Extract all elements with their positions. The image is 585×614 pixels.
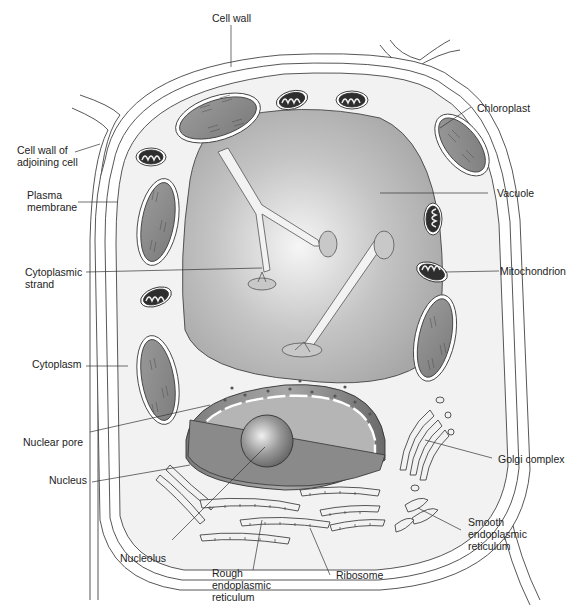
mitochondrion-4 [424,203,442,235]
label-nuclear-pore: Nuclear pore [23,436,83,448]
label-vacuole: Vacuole [497,187,534,199]
label-golgi-complex: Golgi complex [498,453,565,465]
label-nucleus: Nucleus [49,474,87,486]
label-mitochondrion: Mitochondrion [500,265,566,277]
label-ribosome: Ribosome [336,569,383,581]
label-cytoplasm: Cytoplasm [32,358,82,370]
label-chloroplast: Chloroplast [477,102,530,114]
label-cytoplasmic-strand: Cytoplasmic strand [25,266,82,290]
mitochondrion-2 [336,91,368,109]
nucleolus [241,415,293,467]
label-nucleolus: Nucleolus [120,552,166,564]
label-cell-wall: Cell wall [212,12,251,24]
mitochondrion-3 [136,148,166,166]
label-plasma-membrane: Plasma membrane [27,189,77,213]
label-cell-wall-adjoining: Cell wall of adjoining cell [17,144,78,168]
label-rough-er: Rough endoplasmic reticulum [212,567,271,603]
label-smooth-er: Smooth endoplasmic reticulum [468,516,527,552]
